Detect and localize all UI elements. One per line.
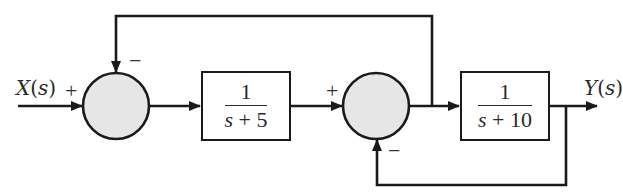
block2-fraction-bar: [478, 105, 532, 107]
block2-denominator: s + 10: [478, 108, 532, 132]
input-label: X(s): [16, 78, 56, 98]
output-label-var: Y: [584, 76, 597, 100]
block1-numerator: 1: [238, 80, 253, 104]
input-label-var: X: [16, 76, 30, 100]
summer2-plus-sign: +: [326, 80, 338, 102]
block-diagram: X(s) + − 1 s + 5 + − 1 s + 10 Y(s): [0, 0, 623, 194]
output-label: Y(s): [584, 78, 623, 98]
summing-junction-1: [83, 73, 149, 139]
transfer-block-2: 1 s + 10: [460, 71, 550, 141]
input-label-arg: s: [38, 76, 48, 100]
block2-fraction: 1 s + 10: [478, 80, 532, 133]
block1-fraction: 1 s + 5: [225, 80, 268, 133]
summer2-minus-sign: −: [388, 140, 400, 162]
block2-numerator: 1: [497, 80, 512, 104]
summing-junction-2: [343, 73, 409, 139]
output-label-arg: s: [605, 76, 615, 100]
block1-denominator: s + 5: [225, 108, 268, 132]
summer1-minus-sign: −: [129, 50, 141, 72]
block1-fraction-bar: [225, 105, 268, 107]
summer1-plus-sign: +: [65, 80, 77, 102]
transfer-block-1: 1 s + 5: [201, 71, 291, 141]
